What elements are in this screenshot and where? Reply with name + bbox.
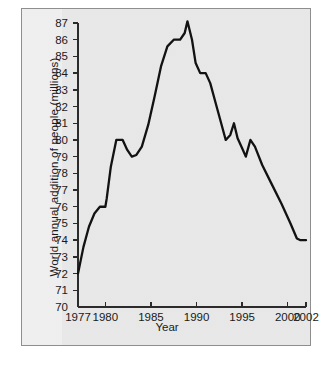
data-series-group [78,21,306,273]
chart-panel: World annual addition of people (million… [21,8,311,346]
axes-group [73,23,306,307]
series-line-0 [78,21,306,273]
plot-area [22,9,312,347]
figure-container: World annual addition of people (million… [0,0,332,369]
